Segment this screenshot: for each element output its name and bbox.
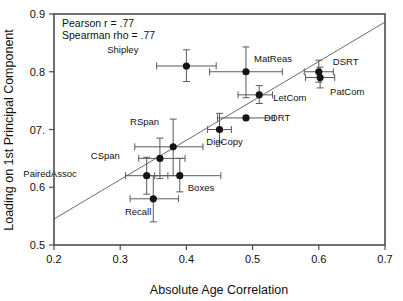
data-point-label: Boxes xyxy=(188,182,215,193)
data-marker xyxy=(216,126,223,133)
x-tick-label: 0.7 xyxy=(377,253,392,265)
y-tick-label: 0.6 xyxy=(30,181,45,193)
data-markers xyxy=(143,62,324,202)
annotation-line: Spearman rho = .77 xyxy=(62,29,155,41)
data-marker xyxy=(183,62,190,69)
y-tick-label: 0.9 xyxy=(30,8,45,20)
data-point-label: LetCom xyxy=(273,92,306,103)
x-tick-label: 0.5 xyxy=(245,253,260,265)
data-point-label: Recall xyxy=(125,206,151,217)
scatter-plot-figure: ShipleyMatReasDSRTPatComLetComDDRTDigCop… xyxy=(0,0,403,301)
data-point-label: DigCopy xyxy=(206,136,243,147)
y-tick-label: 0.5 xyxy=(30,239,45,251)
x-axis-title: Absolute Age Correlation xyxy=(150,283,288,297)
data-marker xyxy=(150,195,157,202)
x-tick-label: 0.2 xyxy=(46,253,61,265)
data-marker xyxy=(170,143,177,150)
data-marker xyxy=(176,172,183,179)
error-bars xyxy=(125,47,334,222)
data-marker xyxy=(143,172,150,179)
data-point-label: PatCom xyxy=(330,86,364,97)
data-marker xyxy=(242,68,249,75)
data-point-labels: ShipleyMatReasDSRTPatComLetComDDRTDigCop… xyxy=(23,44,364,217)
data-point-label: PairedAssoc xyxy=(23,168,77,179)
data-point-label: Shipley xyxy=(107,44,138,55)
data-point-label: DDRT xyxy=(264,112,290,123)
data-point-label: MatReas xyxy=(254,53,292,64)
data-point-label: CSpan xyxy=(91,150,120,161)
x-tick-label: 0.4 xyxy=(179,253,194,265)
y-tick-label: 0.8 xyxy=(30,66,45,78)
statistics-annotation: Pearson r = .77Spearman rho = .77 xyxy=(62,17,155,41)
y-tick-label: 07. xyxy=(30,124,45,136)
data-marker xyxy=(256,91,263,98)
data-marker xyxy=(156,155,163,162)
x-tick-label: 0.6 xyxy=(311,253,326,265)
data-marker xyxy=(242,114,249,121)
data-point-label: DSRT xyxy=(333,56,359,67)
data-marker xyxy=(317,74,324,81)
plot-canvas: ShipleyMatReasDSRTPatComLetComDDRTDigCop… xyxy=(0,0,403,301)
x-tick-label: 0.3 xyxy=(113,253,128,265)
data-point-label: RSpan xyxy=(130,116,159,127)
y-axis-title: Loading on 1st Principal Component xyxy=(2,29,16,231)
x-axis-ticks: 0.20.30.40.50.60.7 xyxy=(46,245,392,265)
y-axis-ticks: 0.50.607.0.80.9 xyxy=(30,8,54,251)
annotation-line: Pearson r = .77 xyxy=(62,17,134,29)
